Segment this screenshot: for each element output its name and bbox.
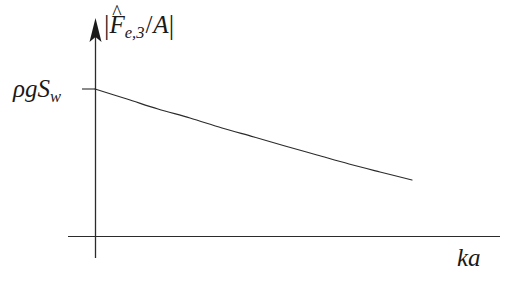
a-symbol: a	[468, 244, 481, 271]
y-axis-abs-bar-close: |	[169, 10, 174, 40]
y-axis-division-slash: /	[144, 11, 153, 38]
y-axis-tick-label: ρgSw	[13, 76, 61, 105]
y-axis-title: |^Fe,3/A|	[104, 11, 174, 41]
figure-container: |^Fe,3/A| ρgSw ka	[0, 0, 514, 285]
data-curve	[95, 89, 412, 180]
rho-symbol: ρ	[13, 75, 25, 102]
y-axis-symbol-wrap: ^F	[109, 12, 124, 37]
S-symbol: S	[38, 75, 51, 102]
k-symbol: k	[457, 244, 468, 271]
g-symbol: g	[25, 75, 38, 102]
hat-accent-icon: ^	[112, 2, 121, 22]
y-axis-denominator: A	[153, 11, 168, 38]
w-subscript: w	[50, 87, 61, 106]
x-axis-title: ka	[457, 245, 481, 270]
plot-svg	[0, 0, 514, 285]
y-axis-subscript-e: e,	[125, 23, 136, 42]
